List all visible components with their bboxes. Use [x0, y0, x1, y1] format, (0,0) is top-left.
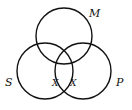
- venn-diagram: M S P X X: [0, 0, 132, 110]
- label-x-left: X: [51, 78, 59, 88]
- label-s: S: [5, 76, 13, 89]
- circle-m: [36, 8, 92, 64]
- circle-s: [17, 43, 73, 99]
- circle-p: [55, 43, 111, 99]
- label-p: P: [115, 76, 124, 89]
- label-m: M: [88, 7, 101, 20]
- label-x-right: X: [69, 78, 77, 88]
